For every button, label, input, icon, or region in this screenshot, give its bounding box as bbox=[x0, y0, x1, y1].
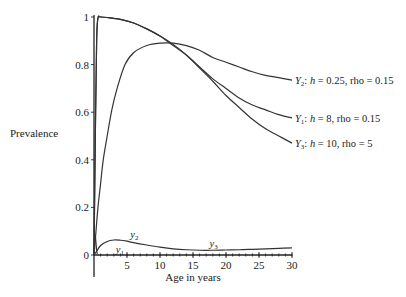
x-tick-label: 15 bbox=[188, 259, 200, 271]
y-tick-label: 0.4 bbox=[75, 154, 89, 166]
y-tick-label: 0.6 bbox=[75, 106, 89, 118]
y-tick-label: 0 bbox=[84, 249, 90, 261]
y-tick-label: 0.2 bbox=[75, 201, 89, 213]
series-label-y2: Y2: h = 0.25, rho = 0.15 bbox=[295, 75, 393, 88]
series-line-y2 bbox=[94, 43, 292, 255]
series-label-y3: Y3: h = 10, rho = 5 bbox=[295, 138, 372, 151]
x-tick-label: 10 bbox=[155, 259, 167, 271]
ticks: 5101520253000.20.40.60.81 bbox=[75, 11, 298, 271]
axes bbox=[94, 15, 292, 277]
x-axis-title: Age in years bbox=[165, 271, 221, 283]
series-line-y3 bbox=[94, 16, 292, 255]
x-tick-label: 30 bbox=[287, 259, 299, 271]
series-line-y1 bbox=[94, 16, 292, 255]
curves bbox=[94, 16, 292, 255]
x-tick-label: 25 bbox=[254, 259, 266, 271]
y-tick-label: 0.8 bbox=[75, 59, 89, 71]
series-label-y1: Y1: h = 8, rho = 0.15 bbox=[295, 113, 380, 126]
y-tick-label: 1 bbox=[84, 11, 90, 23]
prevalence-chart: 5101520253000.20.40.60.81 Y2: h = 0.25, … bbox=[0, 0, 406, 297]
annotation-y2: y2 bbox=[129, 229, 139, 242]
x-tick-label: 5 bbox=[124, 259, 130, 271]
x-tick-label: 20 bbox=[221, 259, 233, 271]
y-axis-title: Prevalence bbox=[10, 127, 58, 139]
annotation-y3: y3 bbox=[209, 238, 219, 251]
labels: Y2: h = 0.25, rho = 0.15Y1: h = 8, rho =… bbox=[115, 75, 394, 257]
